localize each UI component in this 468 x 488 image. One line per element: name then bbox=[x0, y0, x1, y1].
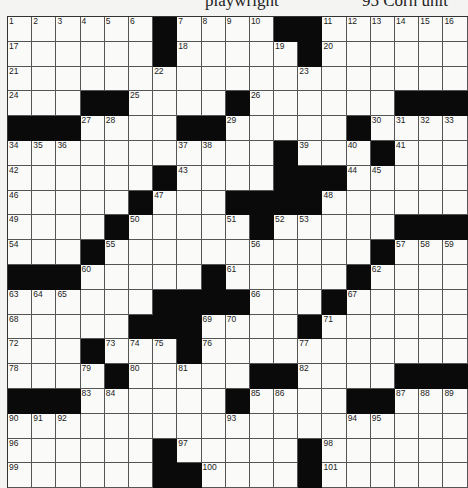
grid-cell[interactable] bbox=[129, 290, 153, 315]
grid-cell[interactable]: 62 bbox=[371, 265, 395, 290]
grid-cell[interactable] bbox=[202, 42, 226, 67]
grid-cell[interactable] bbox=[81, 141, 105, 166]
grid-cell[interactable]: 54 bbox=[8, 240, 32, 265]
grid-cell[interactable] bbox=[395, 439, 419, 464]
grid-cell[interactable] bbox=[32, 191, 56, 216]
grid-cell[interactable] bbox=[81, 315, 105, 340]
grid-cell[interactable] bbox=[347, 191, 371, 216]
grid-cell[interactable]: 57 bbox=[395, 240, 419, 265]
grid-cell[interactable] bbox=[443, 463, 467, 488]
grid-cell[interactable]: 48 bbox=[322, 191, 346, 216]
grid-cell[interactable] bbox=[129, 439, 153, 464]
grid-cell[interactable] bbox=[226, 166, 250, 191]
grid-cell[interactable]: 83 bbox=[81, 389, 105, 414]
grid-cell[interactable] bbox=[347, 67, 371, 92]
grid-cell[interactable]: 75 bbox=[153, 339, 177, 364]
grid-cell[interactable] bbox=[153, 389, 177, 414]
grid-cell[interactable]: 87 bbox=[395, 389, 419, 414]
grid-cell[interactable]: 43 bbox=[177, 166, 201, 191]
grid-cell[interactable] bbox=[250, 42, 274, 67]
grid-cell[interactable] bbox=[395, 315, 419, 340]
grid-cell[interactable] bbox=[274, 265, 298, 290]
grid-cell[interactable]: 27 bbox=[81, 116, 105, 141]
grid-cell[interactable]: 77 bbox=[298, 339, 322, 364]
grid-cell[interactable]: 9 bbox=[226, 17, 250, 42]
grid-cell[interactable] bbox=[56, 191, 80, 216]
grid-cell[interactable] bbox=[250, 315, 274, 340]
grid-cell[interactable] bbox=[56, 91, 80, 116]
grid-cell[interactable]: 101 bbox=[322, 463, 346, 488]
grid-cell[interactable] bbox=[202, 439, 226, 464]
grid-cell[interactable] bbox=[274, 240, 298, 265]
grid-cell[interactable] bbox=[81, 463, 105, 488]
grid-cell[interactable]: 74 bbox=[129, 339, 153, 364]
grid-cell[interactable] bbox=[443, 67, 467, 92]
grid-cell[interactable] bbox=[395, 67, 419, 92]
grid-cell[interactable] bbox=[419, 191, 443, 216]
grid-cell[interactable] bbox=[298, 116, 322, 141]
grid-cell[interactable] bbox=[226, 339, 250, 364]
grid-cell[interactable] bbox=[129, 389, 153, 414]
grid-cell[interactable]: 68 bbox=[8, 315, 32, 340]
grid-cell[interactable] bbox=[105, 414, 129, 439]
grid-cell[interactable] bbox=[56, 315, 80, 340]
grid-cell[interactable] bbox=[177, 414, 201, 439]
grid-cell[interactable] bbox=[202, 67, 226, 92]
grid-cell[interactable] bbox=[32, 91, 56, 116]
grid-cell[interactable]: 24 bbox=[8, 91, 32, 116]
grid-cell[interactable]: 15 bbox=[419, 17, 443, 42]
grid-cell[interactable]: 59 bbox=[443, 240, 467, 265]
grid-cell[interactable] bbox=[250, 439, 274, 464]
grid-cell[interactable] bbox=[347, 339, 371, 364]
grid-cell[interactable]: 17 bbox=[8, 42, 32, 67]
grid-cell[interactable] bbox=[177, 215, 201, 240]
grid-cell[interactable] bbox=[274, 339, 298, 364]
grid-cell[interactable]: 38 bbox=[202, 141, 226, 166]
grid-cell[interactable]: 51 bbox=[226, 215, 250, 240]
grid-cell[interactable] bbox=[322, 215, 346, 240]
grid-cell[interactable] bbox=[419, 265, 443, 290]
grid-cell[interactable] bbox=[443, 290, 467, 315]
grid-cell[interactable] bbox=[298, 290, 322, 315]
grid-cell[interactable] bbox=[56, 67, 80, 92]
grid-cell[interactable] bbox=[395, 166, 419, 191]
grid-cell[interactable] bbox=[274, 439, 298, 464]
grid-cell[interactable]: 73 bbox=[105, 339, 129, 364]
grid-cell[interactable] bbox=[226, 364, 250, 389]
grid-cell[interactable] bbox=[371, 439, 395, 464]
grid-cell[interactable] bbox=[202, 240, 226, 265]
grid-cell[interactable] bbox=[32, 439, 56, 464]
grid-cell[interactable] bbox=[105, 191, 129, 216]
grid-cell[interactable]: 6 bbox=[129, 17, 153, 42]
grid-cell[interactable]: 5 bbox=[105, 17, 129, 42]
grid-cell[interactable] bbox=[274, 290, 298, 315]
grid-cell[interactable]: 86 bbox=[274, 389, 298, 414]
grid-cell[interactable] bbox=[105, 315, 129, 340]
grid-cell[interactable]: 28 bbox=[105, 116, 129, 141]
grid-cell[interactable] bbox=[419, 414, 443, 439]
grid-cell[interactable] bbox=[347, 91, 371, 116]
grid-cell[interactable]: 90 bbox=[8, 414, 32, 439]
grid-cell[interactable] bbox=[395, 42, 419, 67]
grid-cell[interactable]: 32 bbox=[419, 116, 443, 141]
grid-cell[interactable]: 85 bbox=[250, 389, 274, 414]
grid-cell[interactable]: 69 bbox=[202, 315, 226, 340]
grid-cell[interactable] bbox=[443, 166, 467, 191]
grid-cell[interactable] bbox=[202, 215, 226, 240]
grid-cell[interactable] bbox=[250, 67, 274, 92]
grid-cell[interactable] bbox=[419, 290, 443, 315]
grid-cell[interactable] bbox=[105, 439, 129, 464]
grid-cell[interactable] bbox=[202, 191, 226, 216]
grid-cell[interactable] bbox=[250, 463, 274, 488]
grid-cell[interactable] bbox=[419, 141, 443, 166]
grid-cell[interactable]: 94 bbox=[347, 414, 371, 439]
grid-cell[interactable] bbox=[129, 240, 153, 265]
grid-cell[interactable] bbox=[56, 439, 80, 464]
grid-cell[interactable] bbox=[419, 42, 443, 67]
grid-cell[interactable]: 41 bbox=[395, 141, 419, 166]
grid-cell[interactable]: 2 bbox=[32, 17, 56, 42]
grid-cell[interactable] bbox=[153, 215, 177, 240]
grid-cell[interactable]: 96 bbox=[8, 439, 32, 464]
grid-cell[interactable]: 47 bbox=[153, 191, 177, 216]
grid-cell[interactable]: 29 bbox=[226, 116, 250, 141]
